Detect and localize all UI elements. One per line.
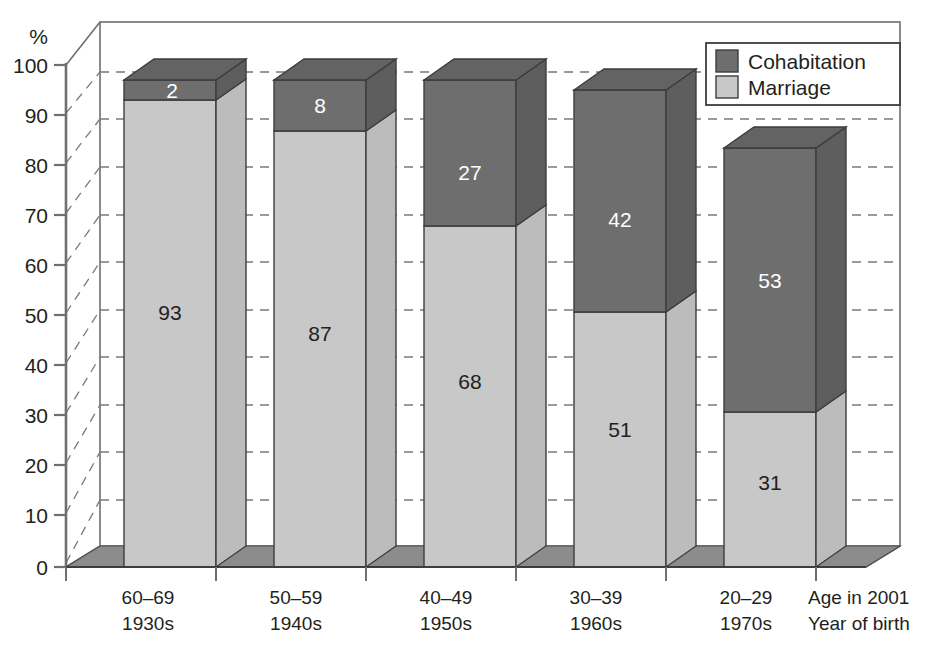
bar-group-4[interactable]: 42 51 — [574, 69, 696, 567]
legend-swatch-marriage — [716, 76, 738, 98]
bar-group-3[interactable]: 27 68 — [424, 59, 546, 567]
y-tick-label-10: 10 — [25, 504, 48, 527]
bar-3-marriage-front — [424, 226, 516, 567]
y-tick-label-90: 90 — [25, 104, 48, 127]
bar-3-cohabitation-value: 27 — [458, 161, 481, 184]
bar-1-marriage-side — [216, 79, 246, 567]
x-axis-caption: Age in 2001 Year of birth — [808, 587, 910, 634]
x-axis-caption-line2: Year of birth — [808, 613, 910, 634]
y-tick-label-60: 60 — [25, 254, 48, 277]
bar-5-marriage-side — [816, 391, 846, 567]
y-tick-label-30: 30 — [25, 404, 48, 427]
connector-40 — [66, 357, 100, 413]
connector-60 — [66, 262, 100, 313]
y-tick-label-80: 80 — [25, 154, 48, 177]
y-tick-label-0: 0 — [36, 556, 48, 579]
x-label-3-age: 40–49 — [420, 587, 473, 608]
legend[interactable]: Cohabitation Marriage — [706, 43, 900, 105]
bar-group-1[interactable]: 2 93 — [124, 59, 246, 567]
x-axis — [66, 567, 866, 581]
bar-3-marriage-side — [516, 205, 546, 567]
x-label-5-decade: 1970s — [720, 613, 772, 634]
bar-2-marriage-side — [366, 110, 396, 567]
connector-20 — [66, 452, 100, 513]
bar-4-marriage-side — [666, 291, 696, 567]
legend-label-cohabitation: Cohabitation — [748, 50, 866, 73]
y-tick-label-40: 40 — [25, 354, 48, 377]
x-label-4-decade: 1960s — [570, 613, 622, 634]
x-tick-labels: 60–69 1930s 50–59 1940s 40–49 1950s 30–3… — [122, 587, 773, 634]
x-label-4-age: 30–39 — [570, 587, 623, 608]
bar-1-marriage-value: 93 — [158, 301, 181, 324]
legend-swatch-cohabitation — [716, 50, 738, 72]
bar-3-cohabitation-side — [516, 59, 546, 226]
chart-figure: % 100 90 80 70 60 50 40 30 20 10 0 2 93 — [0, 0, 938, 650]
y-tick-label-100: 100 — [13, 54, 48, 77]
perspective-edge-top — [66, 22, 100, 65]
bar-5-marriage-value: 31 — [758, 471, 781, 494]
x-label-5-age: 20–29 — [720, 587, 773, 608]
stacked-column-chart: % 100 90 80 70 60 50 40 30 20 10 0 2 93 — [0, 0, 938, 650]
legend-label-marriage: Marriage — [748, 76, 831, 99]
gridline-connectors — [66, 72, 100, 563]
connector-80 — [66, 167, 100, 213]
bar-2-cohabitation-value: 8 — [314, 94, 326, 117]
bar-1-marriage-front — [124, 100, 216, 567]
bar-3-marriage-value: 68 — [458, 370, 481, 393]
connector-70 — [66, 215, 100, 263]
bar-4-cohabitation-value: 42 — [608, 208, 631, 231]
x-label-3-decade: 1950s — [420, 613, 472, 634]
bar-4-marriage-value: 51 — [608, 418, 631, 441]
bar-group-2[interactable]: 8 87 — [274, 59, 396, 567]
y-tick-label-50: 50 — [25, 304, 48, 327]
y-tick-label-20: 20 — [25, 454, 48, 477]
bar-5-cohabitation-value: 53 — [758, 269, 781, 292]
connector-100 — [66, 72, 100, 113]
x-label-1-age: 60–69 — [122, 587, 175, 608]
bar-2-marriage-front — [274, 131, 366, 567]
y-axis: % 100 90 80 70 60 50 40 30 20 10 0 — [13, 25, 66, 579]
bar-1-cohabitation-value: 2 — [166, 79, 178, 102]
x-axis-caption-line1: Age in 2001 — [808, 587, 909, 608]
x-label-1-decade: 1930s — [122, 613, 174, 634]
bar-4-cohabitation-side — [666, 69, 696, 312]
bar-2-marriage-value: 87 — [308, 322, 331, 345]
bar-3-cohabitation-front — [424, 80, 516, 226]
bar-5-cohabitation-side — [816, 127, 846, 412]
x-label-2-age: 50–59 — [270, 587, 323, 608]
y-axis-unit-label: % — [29, 25, 48, 48]
connector-90 — [66, 119, 100, 163]
bar-group-5[interactable]: 53 31 — [724, 127, 846, 567]
bar-4-cohabitation-front — [574, 90, 666, 312]
connector-50 — [66, 310, 100, 363]
y-tick-label-70: 70 — [25, 204, 48, 227]
x-label-2-decade: 1940s — [270, 613, 322, 634]
connector-30 — [66, 405, 100, 463]
